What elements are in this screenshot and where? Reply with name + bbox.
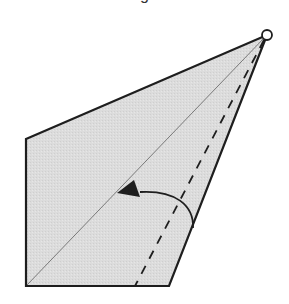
pivot-point-icon <box>262 30 272 40</box>
origami-fold-diagram <box>0 0 289 304</box>
